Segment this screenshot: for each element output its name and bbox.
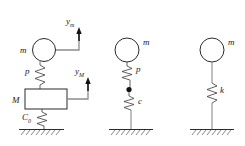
label-m-right: m [228, 37, 235, 47]
system-middle: m p c [109, 37, 153, 135]
label-ym: ym [65, 16, 75, 28]
spring-C0 [37, 109, 47, 129]
label-p-middle: p [135, 64, 141, 74]
label-yM: yM [74, 66, 85, 78]
mass-m-circle-middle [115, 38, 139, 62]
ground-left [19, 130, 64, 136]
label-M: M [11, 95, 20, 105]
label-p-left: p [24, 66, 30, 76]
label-m-middle: m [143, 37, 150, 47]
spring-p-middle [122, 62, 132, 88]
mass-m-circle-right [200, 38, 224, 62]
mass-M-block [25, 89, 67, 109]
arrow-yM [85, 77, 90, 91]
ground-right [190, 130, 234, 136]
label-c-middle: c [138, 96, 142, 106]
ground-middle [109, 130, 153, 136]
vibration-diagram-figure: ym m p M yM [0, 0, 245, 146]
label-m-left: m [20, 45, 27, 55]
label-k-right: k [220, 85, 225, 95]
connector-ym [55, 33, 79, 50]
label-C0: C0 [22, 112, 31, 124]
arrow-ym [76, 27, 81, 41]
damper-c-middle [124, 92, 134, 129]
junction-dot-middle [126, 87, 131, 92]
connector-yM [67, 83, 88, 99]
system-right: m k [190, 37, 235, 135]
mass-m-circle-left [33, 39, 56, 62]
spring-k-right [207, 83, 217, 103]
system-left: ym m p M yM [11, 16, 91, 135]
spring-p-left [35, 62, 45, 90]
